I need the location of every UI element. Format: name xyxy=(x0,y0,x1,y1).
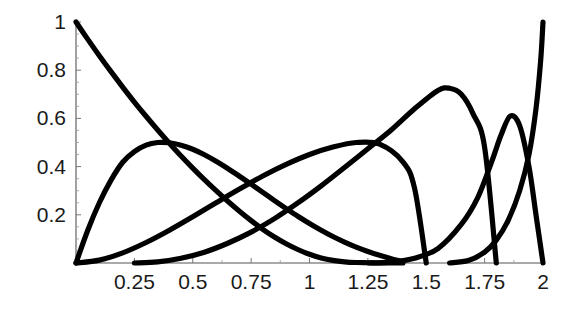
y-axis-tick-label: 0.2 xyxy=(37,203,66,226)
y-axis-tick-label: 0.6 xyxy=(37,106,66,129)
chart-plot-area: 0.250.50.7511.251.51.752 0.20.40.60.81 xyxy=(0,0,573,318)
x-axis-tick-label: 0.5 xyxy=(178,270,207,293)
x-axis-tick-label: 1.75 xyxy=(464,270,505,293)
x-axis-tick-label: 0.75 xyxy=(231,270,272,293)
x-axis-tick-label: 1.5 xyxy=(412,270,441,293)
x-axis-tick-label: 1.25 xyxy=(347,270,388,293)
y-axis-tick-label: 1 xyxy=(54,10,66,33)
y-axis-tick-label: 0.8 xyxy=(37,58,66,81)
x-axis-tick-label: 1 xyxy=(304,270,316,293)
y-axis-tick-label: 0.4 xyxy=(37,155,67,178)
x-axis-tick-label: 0.25 xyxy=(114,270,155,293)
x-axis-tick-label: 2 xyxy=(537,270,549,293)
chart-canvas: 0.250.50.7511.251.51.752 0.20.40.60.81 xyxy=(0,0,573,318)
